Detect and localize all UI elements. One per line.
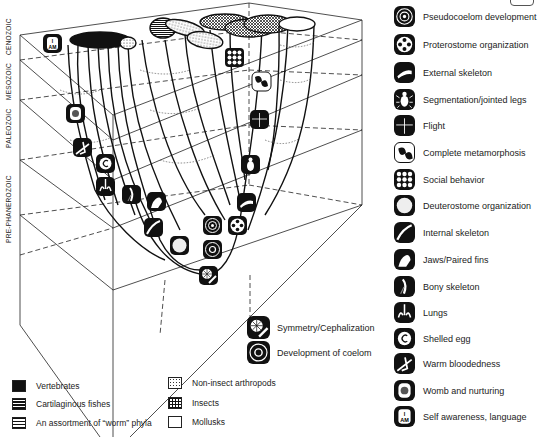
self-awareness-icon: I AM <box>43 34 62 53</box>
base-key-symmetry: Symmetry/Cephalization <box>247 316 375 339</box>
legend-item-vertebrates: Vertebrates <box>12 380 79 392</box>
coelom-icon <box>247 341 270 364</box>
bony-skeleton-icon <box>122 185 141 204</box>
era-label-pre-phanerozoic: PRE-PHANEROZOIC <box>5 175 12 243</box>
proterostome-icon <box>228 216 247 235</box>
social-behavior-icon <box>394 169 415 190</box>
key-item-jaws-fins: Jaws/Paired fins <box>394 249 489 270</box>
external-skeleton-icon <box>237 193 256 212</box>
legend-item-cartilaginous-fishes: Cartilaginous fishes <box>12 398 110 410</box>
key-item-shelled-egg: Shelled egg <box>394 328 471 349</box>
svg-text:AM: AM <box>49 44 57 50</box>
flight-icon <box>250 110 269 129</box>
internal-skeleton-icon <box>394 222 415 243</box>
base-key-coelom: Development of coelom <box>247 341 372 364</box>
era-label-mesozoic: MESOZOIC <box>5 63 12 100</box>
shelled-egg-icon <box>394 328 415 349</box>
pseudocoelom-icon <box>203 216 222 235</box>
key-item-lungs: Lungs <box>394 302 448 323</box>
jaws-fins-icon <box>147 192 166 211</box>
deuterostome-icon <box>394 195 415 216</box>
key-item-social-behavior: Social behavior <box>394 169 485 190</box>
lungs-icon <box>394 302 415 323</box>
svg-text:AM: AM <box>400 417 409 423</box>
metamorphosis-icon <box>394 142 415 163</box>
crosshatch-swatch <box>168 397 182 409</box>
white-swatch <box>168 416 182 428</box>
bony-skeleton-icon <box>394 276 415 297</box>
symmetry-icon <box>199 266 218 285</box>
internal-skeleton-icon <box>144 218 163 237</box>
shelled-egg-icon <box>96 154 115 173</box>
lungs-icon <box>96 177 115 196</box>
legend-item-mollusks: Mollusks <box>168 416 225 428</box>
key-item-womb: Womb and nurturing <box>394 380 504 401</box>
key-item-warm-blood: Warm bloodedness <box>394 353 500 374</box>
key-item-jointed-legs: Segmentation/jointed legs <box>394 89 527 110</box>
metamorphosis-icon <box>252 72 271 91</box>
external-skeleton-icon <box>394 62 415 83</box>
key-item-deuterostome: Deuterostome organization <box>394 195 531 216</box>
brick-pattern-swatch <box>12 398 26 410</box>
symmetry-icon <box>247 316 270 339</box>
coelom-icon <box>203 240 222 259</box>
key-item-internal-skeleton: Internal skeleton <box>394 222 489 243</box>
warm-blood-icon <box>73 138 92 157</box>
self-awareness-icon: IAM <box>394 406 415 427</box>
key-item-proterostome: Proterostome organization <box>394 34 529 55</box>
flight-icon <box>394 115 415 136</box>
era-label-paleozoic: PALEOZOIC <box>5 109 12 148</box>
key-item-bony-skeleton: Bony skeleton <box>394 276 480 297</box>
womb-icon <box>66 104 85 123</box>
legend-item-worm-phyla: An assortment of “worm” phyla <box>12 417 152 429</box>
jaws-fins-icon <box>394 249 415 270</box>
solid-black-swatch <box>12 380 26 392</box>
jointed-legs-icon <box>241 155 260 174</box>
legend-item-insects: Insects <box>168 397 219 409</box>
legend-item-non-insect-arthropods: Non-insect arthropods <box>168 377 276 389</box>
era-label-cenozoic: CENOZOIC <box>5 18 12 55</box>
key-item-self-awareness: IAM Self awareness, language <box>394 406 527 427</box>
pseudocoelom-icon <box>394 6 415 27</box>
social-behavior-icon <box>225 48 244 67</box>
jointed-legs-icon <box>394 89 415 110</box>
warm-blood-icon <box>394 353 415 374</box>
stipple-swatch <box>168 377 182 389</box>
key-item-external-skeleton: External skeleton <box>394 62 492 83</box>
proterostome-icon <box>394 34 415 55</box>
key-item-metamorphosis: Complete metamorphosis <box>394 142 526 163</box>
key-item-pseudocoelom: Pseudocoelom development <box>394 6 537 27</box>
key-item-flight: Flight <box>394 115 445 136</box>
deuterostome-icon <box>170 236 189 255</box>
womb-icon <box>394 380 415 401</box>
horizontal-lines-swatch <box>12 417 26 429</box>
